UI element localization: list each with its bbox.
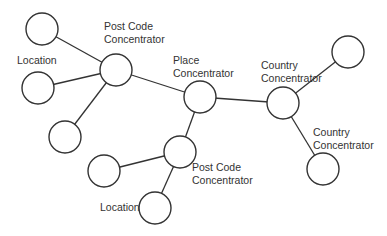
node-circle [26,13,58,45]
label-line: Concentrator [173,67,234,80]
node-circle [184,81,216,113]
label-location-left: Location [17,54,57,67]
node-circle [307,153,339,185]
label-line: Concentrator [261,72,322,85]
label-postcode-concentrator-top: Post Code Concentrator [104,20,165,46]
node-circle [267,87,299,119]
label-line: Country [261,59,322,72]
label-location-bottom: Location [100,201,140,214]
node-circle [100,54,132,86]
label-line: Concentrator [192,174,253,187]
network-diagram [0,0,387,236]
node-circle [88,155,120,187]
node-circle [332,36,364,68]
label-place-concentrator: Place Concentrator [173,54,234,80]
label-line: Location [17,54,57,67]
label-line: Post Code [104,20,165,33]
label-line: Post Code [192,161,253,174]
label-country-concentrator-lower: Country Concentrator [313,126,374,152]
label-line: Concentrator [313,139,374,152]
node-circle [22,72,54,104]
label-line: Location [100,201,140,214]
label-line: Concentrator [104,33,165,46]
node-circle [139,192,171,224]
node-circle [49,121,81,153]
label-line: Country [313,126,374,139]
nodes [22,13,364,224]
label-line: Place [173,54,234,67]
label-country-concentrator: Country Concentrator [261,59,322,85]
label-postcode-concentrator-lower: Post Code Concentrator [192,161,253,187]
